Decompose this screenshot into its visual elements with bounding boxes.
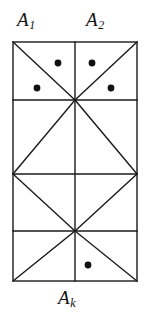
diagonal-line-3: [13, 100, 75, 174]
diagonal-line-2: [75, 42, 137, 100]
diagonal-line-7: [13, 231, 75, 281]
diagonal-line-8: [75, 231, 137, 281]
grid-lines-group: [13, 42, 137, 281]
label-ak: Ak: [58, 288, 75, 307]
vertex-dot-3: [34, 85, 41, 92]
label-a1: A1: [17, 10, 35, 29]
label-a2-base: A: [86, 9, 98, 30]
triangulated-rectangle-svg: [0, 0, 146, 319]
label-ak-base: A: [58, 287, 70, 308]
diagonal-line-1: [13, 42, 75, 100]
label-ak-subscript: k: [70, 296, 76, 310]
vertex-dot-1: [55, 60, 62, 67]
diagonal-line-4: [75, 100, 137, 174]
diagonal-line-6: [75, 174, 137, 231]
vertex-dot-4: [108, 85, 115, 92]
vertex-dots-group: [34, 60, 115, 269]
label-a2: A2: [86, 10, 104, 29]
label-a1-base: A: [17, 9, 29, 30]
partition-diagram: A1 A2 Ak: [0, 0, 146, 319]
vertex-dot-5: [85, 262, 92, 269]
label-a2-subscript: 2: [98, 18, 104, 32]
vertex-dot-2: [89, 60, 96, 67]
diagonal-line-5: [13, 174, 75, 231]
label-a1-subscript: 1: [29, 18, 35, 32]
